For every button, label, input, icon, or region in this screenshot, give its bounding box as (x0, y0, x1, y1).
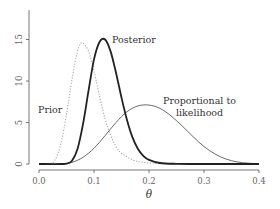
y-tick-label: 10 (14, 76, 24, 87)
x-tick-label: 0.1 (87, 176, 101, 186)
x-ticks: 0.0 0.1 0.2 0.3 0.4 (32, 170, 266, 186)
y-tick-label: 15 (14, 34, 24, 45)
likelihood-label-line1: Proportional to (163, 95, 236, 106)
x-tick-label: 0.4 (252, 176, 266, 186)
density-chart: 0 5 10 15 0.0 0.1 0.2 0.3 0.4 θ Prior Po… (0, 0, 280, 209)
x-axis-label: θ (146, 188, 153, 200)
x-tick-label: 0.0 (32, 176, 46, 186)
likelihood-label-line2: likelihood (176, 107, 223, 118)
posterior-label: Posterior (112, 34, 156, 45)
y-ticks: 0 5 10 15 (14, 34, 29, 167)
likelihood-curve (39, 105, 259, 164)
x-tick-label: 0.2 (142, 176, 156, 186)
prior-label: Prior (38, 104, 63, 115)
x-tick-label: 0.3 (197, 176, 211, 186)
y-tick-label: 0 (14, 161, 24, 166)
y-tick-label: 5 (14, 120, 24, 125)
